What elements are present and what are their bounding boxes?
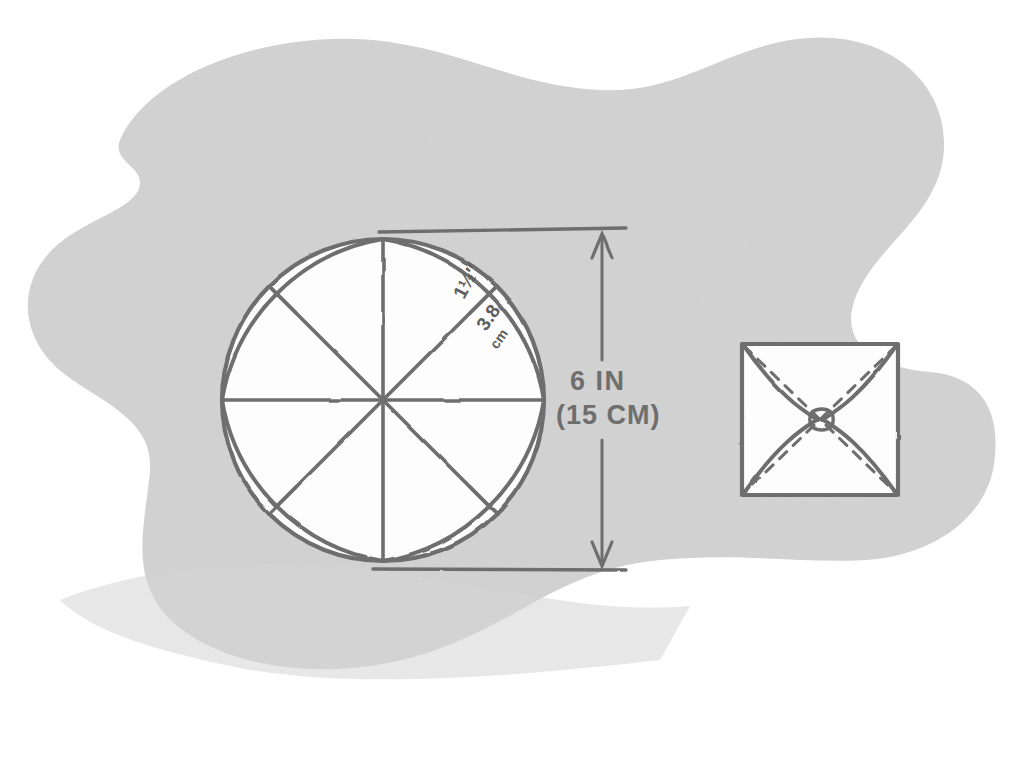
- diagram-page: 6 IN (15 CM) 1½″ 3.8 cm 6 IN: [0, 0, 1010, 780]
- square-pattern-figure: [742, 344, 898, 495]
- circle-pattern-figure: [222, 239, 544, 561]
- dimension-extension-bottom: [373, 569, 626, 570]
- diameter-cm-text: (15 CM): [556, 400, 661, 430]
- diameter-inches-text: 6 IN: [570, 366, 626, 396]
- diagram-canvas: 6 IN (15 CM) 1½″ 3.8 cm: [0, 0, 1010, 780]
